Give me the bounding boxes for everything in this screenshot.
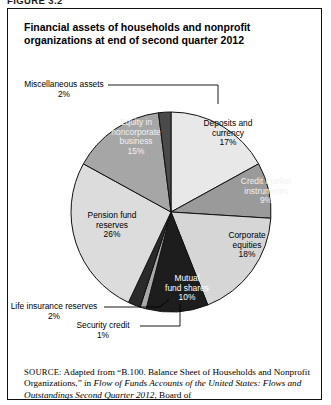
pie-slices [71, 112, 271, 312]
source-note: SOURCE: Adapted from “B.100. Balance She… [24, 367, 314, 401]
leader-label-security-name: Security credit [76, 320, 129, 330]
figure-box: Financial assets of households and nonpr… [7, 8, 322, 400]
source-text-2: , Board of [154, 390, 191, 400]
figure-tag: FIGURE 3.2 [7, 0, 63, 6]
leader-line-miscellaneous [108, 85, 218, 104]
leader-label-misc-name: Miscellaneous assets [24, 79, 104, 89]
leader-label-life-insurance-reserves: Life insurance reserves 2% [4, 301, 104, 321]
leader-label-security-pct: 1% [66, 330, 140, 340]
pie-chart: Deposits and currency 17% Credit market … [8, 9, 323, 401]
source-label: SOURCE: [24, 367, 62, 377]
leader-label-misc-pct: 2% [20, 89, 108, 99]
leader-label-security-credit: Security credit 1% [66, 320, 140, 340]
leader-label-miscellaneous-assets: Miscellaneous assets 2% [20, 79, 108, 99]
pie-chart-svg [8, 9, 323, 401]
leader-label-life-name: Life insurance reserves [11, 301, 98, 311]
